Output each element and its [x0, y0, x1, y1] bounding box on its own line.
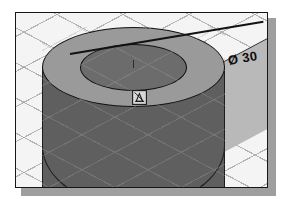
cad-viewport[interactable]: Ø 30: [15, 12, 268, 188]
center-axis-tick: [133, 60, 134, 68]
cursor-glyph: [132, 90, 147, 105]
center-snap-cursor-icon: [132, 90, 147, 105]
cylinder-bottom-arc[interactable]: [42, 146, 225, 188]
page-canvas: Ø 30: [0, 0, 282, 199]
cylinder-solid[interactable]: [42, 27, 225, 188]
